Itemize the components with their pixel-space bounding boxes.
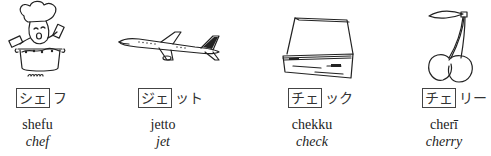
english-gloss: chef [0, 134, 75, 150]
katakana-rest: ック [322, 89, 353, 107]
english-gloss: jet [120, 134, 206, 150]
romaji: chekku [269, 117, 355, 133]
english-gloss: check [269, 134, 355, 150]
katakana-rest: フ [50, 89, 67, 107]
katakana-rest: ット [172, 89, 203, 107]
english-gloss: cherry [405, 134, 483, 150]
vocab-item-cherry: チェ リー cherī cherry [405, 0, 483, 156]
romaji: cherī [405, 117, 483, 133]
checkbook-illustration-icon [281, 14, 357, 80]
vocab-item-check: チェ ック chekku check [269, 0, 355, 156]
highlighted-katakana: ジェ [138, 88, 172, 108]
chef-illustration-icon [8, 2, 72, 84]
katakana-rest: リー [456, 89, 487, 107]
highlighted-katakana: チェ [288, 88, 322, 108]
katakana-word: チェ ック [288, 88, 353, 108]
highlighted-katakana: チェ [422, 88, 456, 108]
romaji: jetto [120, 117, 206, 133]
vocab-item-chef: シェ フ shefu chef [0, 0, 75, 156]
romaji: shefu [0, 117, 75, 133]
cherries-illustration-icon [427, 8, 475, 84]
jet-airplane-illustration-icon [115, 30, 225, 70]
katakana-word: シェ フ [16, 88, 67, 108]
katakana-word: チェ リー [422, 88, 487, 108]
katakana-word: ジェ ット [138, 88, 203, 108]
vocab-item-jet: ジェ ット jetto jet [120, 0, 206, 156]
highlighted-katakana: シェ [16, 88, 50, 108]
